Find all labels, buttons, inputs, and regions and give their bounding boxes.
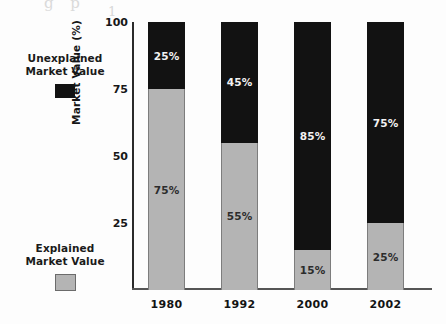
- bar-segment-explained-1980[interactable]: 75%: [148, 89, 185, 290]
- bar-value-label-unexplained-1980: 25%: [154, 50, 180, 62]
- y-tick-label-75: 75: [98, 83, 128, 96]
- chart-figure: g p 1 Unexplained Market Value Explained…: [0, 0, 446, 324]
- bar-value-label-unexplained-2000: 85%: [300, 130, 326, 142]
- y-axis-line: [132, 22, 134, 290]
- legend-label-unexplained-line2: Market Value: [5, 65, 125, 78]
- x-tick-label-2002: 2002: [356, 298, 416, 311]
- bar-1992[interactable]: 55%45%: [221, 22, 258, 290]
- x-tick-label-1992: 1992: [210, 298, 270, 311]
- y-tick-label-100: 100: [98, 16, 128, 29]
- y-tick-label-25: 25: [98, 217, 128, 230]
- bar-value-label-unexplained-2002: 75%: [373, 117, 399, 129]
- legend-item-explained: Explained Market Value: [5, 242, 125, 291]
- bar-segment-unexplained-1980[interactable]: 25%: [148, 22, 185, 89]
- plot-area: Market Value (%) 100 75 50 25 75%25%55%4…: [132, 20, 432, 290]
- bar-segment-unexplained-1992[interactable]: 45%: [221, 22, 258, 143]
- legend-label-unexplained-line1: Unexplained: [5, 52, 125, 65]
- legend-swatch-explained-icon: [55, 274, 76, 291]
- legend-label-explained-line1: Explained: [5, 242, 125, 255]
- x-tick-label-2000: 2000: [283, 298, 343, 311]
- bar-value-label-unexplained-1992: 45%: [227, 76, 253, 88]
- y-axis-title: Market Value (%): [70, 0, 82, 125]
- bar-2002[interactable]: 25%75%: [367, 22, 404, 290]
- bar-segment-explained-1992[interactable]: 55%: [221, 143, 258, 290]
- bar-segment-explained-2000[interactable]: 15%: [294, 250, 331, 290]
- bar-value-label-explained-1992: 55%: [227, 210, 253, 222]
- bar-segment-unexplained-2002[interactable]: 75%: [367, 22, 404, 223]
- bar-value-label-explained-1980: 75%: [154, 184, 180, 196]
- bar-segment-explained-2002[interactable]: 25%: [367, 223, 404, 290]
- y-tick-label-50: 50: [98, 150, 128, 163]
- bar-2000[interactable]: 15%85%: [294, 22, 331, 290]
- x-tick-label-1980: 1980: [137, 298, 197, 311]
- legend-label-explained-line2: Market Value: [5, 255, 125, 268]
- bar-segment-unexplained-2000[interactable]: 85%: [294, 22, 331, 250]
- bar-value-label-explained-2002: 25%: [373, 251, 399, 263]
- bar-value-label-explained-2000: 15%: [300, 264, 326, 276]
- bar-1980[interactable]: 75%25%: [148, 22, 185, 290]
